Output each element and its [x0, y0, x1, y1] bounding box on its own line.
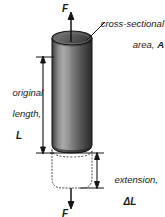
- extension-label: extension, ΔL: [104, 164, 164, 217]
- force-label-top: F: [62, 3, 68, 14]
- extension-symbol: ΔL: [104, 196, 156, 207]
- original-length-line2: length,: [13, 108, 42, 119]
- figure-canvas: F F cross-sectional area, A original len…: [0, 0, 165, 217]
- extension-dimension-line: [50, 153, 104, 189]
- force-arrow-down: [68, 188, 74, 209]
- original-length-line1: original: [13, 87, 44, 98]
- cross-sectional-area-line1: cross-sectional: [101, 18, 164, 29]
- extension-dotted-outline: [52, 150, 92, 188]
- cross-sectional-area-symbol: A: [157, 39, 164, 50]
- original-length-symbol: L: [2, 130, 36, 141]
- extension-line1: extension,: [115, 174, 158, 185]
- cross-sectional-area-label: cross-sectional area, A: [84, 8, 164, 61]
- original-length-label: original length, L: [2, 77, 42, 163]
- force-label-bottom: F: [62, 208, 68, 217]
- cross-sectional-area-line2: area,: [133, 39, 157, 50]
